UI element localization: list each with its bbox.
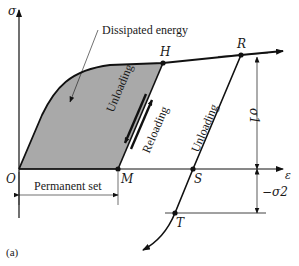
- epsilon-axis-label: ε: [285, 170, 291, 181]
- point-S-label: S: [194, 173, 202, 185]
- point-M-label: M: [121, 173, 133, 185]
- sigma-axis-label: σ: [8, 5, 16, 17]
- point-R-label: R: [237, 38, 246, 50]
- point-R: [238, 52, 243, 57]
- sigma1-label: σ1: [248, 108, 260, 124]
- sigma2-label: −σ2: [262, 186, 288, 198]
- unloading-line-RST: [143, 55, 241, 250]
- permanent-set-label: Permanent set: [34, 180, 102, 192]
- point-T-label: T: [176, 217, 184, 229]
- point-H-label: H: [160, 46, 170, 58]
- dissipated-energy-label: Dissipated energy: [102, 24, 188, 36]
- point-T: [172, 210, 177, 215]
- point-O-label: O: [6, 173, 16, 185]
- point-H: [160, 60, 165, 65]
- point-S: [190, 166, 195, 171]
- point-M: [115, 166, 120, 171]
- panel-label: (a): [6, 247, 18, 258]
